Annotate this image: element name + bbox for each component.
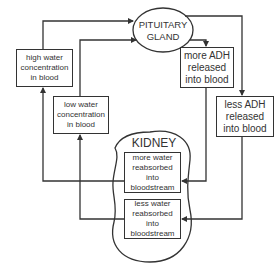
box-text: bloodstream [130,183,174,193]
more-adh-released-box: more ADH released into blood [180,47,234,88]
pituitary-gland-label: PITUITARY GLAND [133,19,193,43]
box-text: more water [130,153,174,163]
box-text: into [130,173,174,183]
box-text: in blood [57,120,105,130]
pituitary-label-line2: GLAND [133,31,193,43]
less-adh-released-box: less ADH released into blood [216,96,274,137]
box-text: less ADH [223,99,266,111]
box-text: concentration [20,63,68,73]
more-water-reabsorbed-box: more water reabsorbed into bloodstream [124,152,181,193]
box-text: into blood [184,74,230,86]
box-text: bloodstream [130,229,174,239]
box-text: high water [20,53,68,63]
kidney-label: KIDNEY [125,136,183,150]
box-text: in blood [20,73,68,83]
box-text: low water [57,100,105,110]
box-text: into [130,219,174,229]
box-text: released [184,62,230,74]
box-text: concentration [57,110,105,120]
pituitary-label-line1: PITUITARY [133,19,193,31]
box-text: reabsorbed [130,163,174,173]
high-water-concentration-box: high water concentration in blood [16,49,73,87]
less-water-reabsorbed-box: less water reabsorbed into bloodstream [124,199,181,239]
box-text: less water [130,199,174,209]
box-text: reabsorbed [130,209,174,219]
box-text: more ADH [184,50,230,62]
box-text: released [223,111,266,123]
box-text: into blood [223,123,266,135]
kidney-outline [113,131,192,262]
low-water-concentration-box: low water concentration in blood [53,96,109,134]
